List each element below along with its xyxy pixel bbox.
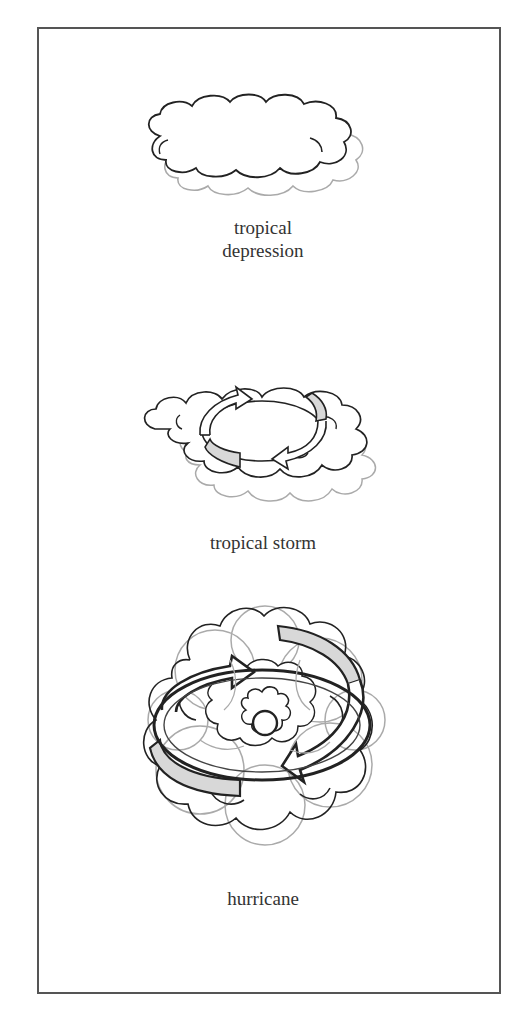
hurricane-eye-icon [253,711,277,735]
caption-hurricane: hurricane [0,887,526,910]
caption-line: hurricane [0,887,526,910]
caption-line: tropical storm [0,531,526,554]
caption-line: depression [0,239,526,262]
caption-line: tropical [0,216,526,239]
hurricane-icon [0,600,526,860]
rotating-cloud-cluster-icon [0,355,526,555]
caption-tropical-depression: tropical depression [0,216,526,262]
caption-tropical-storm: tropical storm [0,531,526,554]
